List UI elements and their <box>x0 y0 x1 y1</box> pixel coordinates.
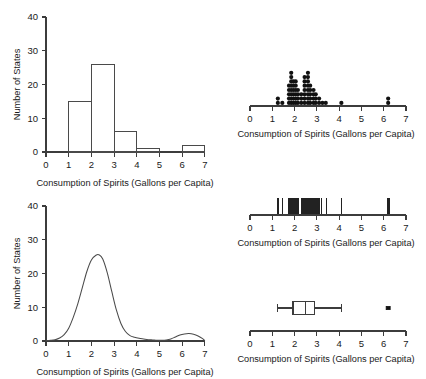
dotplot-dot <box>314 92 318 96</box>
density-xtick-3: 3 <box>111 348 116 359</box>
histogram-bars <box>69 64 205 152</box>
histogram-ytick-30: 30 <box>27 45 38 56</box>
density-y-axis-label: Number of States <box>12 237 22 309</box>
rugplot-xtick-0: 0 <box>247 222 252 233</box>
rugplot-xtick-2: 2 <box>292 222 297 233</box>
histogram-x-ticks <box>46 152 205 157</box>
histogram-ytick-40: 40 <box>27 11 38 22</box>
density-ytick-0: 0 <box>33 335 38 346</box>
dotplot-dot <box>280 101 284 105</box>
dotplot-dot <box>276 97 280 101</box>
histogram-ytick-10: 10 <box>27 113 38 124</box>
histogram-bar <box>114 132 137 152</box>
density-xtick-6: 6 <box>180 348 185 359</box>
histogram-bar <box>91 64 114 152</box>
dotplot-xtick-2: 2 <box>292 113 297 124</box>
dotplot-dots <box>276 71 391 105</box>
dotplot-svg: 0 1 2 3 4 5 6 7 Consumption of Spirits (… <box>226 40 426 140</box>
histogram-xtick-5: 5 <box>157 159 162 170</box>
density-x-axis-label: Consumption of Spirits (Gallons per Capi… <box>36 367 213 377</box>
boxplot-x-axis: 0 1 2 3 4 5 6 7 <box>247 331 408 349</box>
boxplot-xtick-6: 6 <box>381 338 386 349</box>
density-xtick-5: 5 <box>157 348 162 359</box>
density-xtick-0: 0 <box>43 348 48 359</box>
dotplot-xtick-3: 3 <box>314 113 319 124</box>
histogram-xtick-4: 4 <box>134 159 139 170</box>
statistics-figure: 0 10 20 30 40 0 1 <box>0 0 426 379</box>
rugplot-xtick-4: 4 <box>336 222 341 233</box>
dotplot-dot <box>306 75 310 79</box>
dotplot-x-ticks <box>250 106 406 111</box>
boxplot-x-ticks <box>250 331 406 336</box>
density-curve-line <box>46 255 205 341</box>
rugplot-svg: 0 1 2 3 4 5 6 7 Consumption of Spirits (… <box>226 185 426 255</box>
dotplot-dot <box>296 88 300 92</box>
boxplot-marks <box>277 302 390 315</box>
density-ytick-30: 30 <box>27 234 38 245</box>
panel-dotplot: 0 1 2 3 4 5 6 7 Consumption of Spirits (… <box>226 40 426 140</box>
density-x-ticks <box>46 341 205 346</box>
dotplot-dot <box>306 79 310 83</box>
histogram-xtick-2: 2 <box>89 159 94 170</box>
density-xtick-2: 2 <box>89 348 94 359</box>
dotplot-xtick-0: 0 <box>247 113 252 124</box>
rugplot-ticks <box>277 198 389 214</box>
panel-boxplot: 0 1 2 3 4 5 6 7 Consumption of Spirits (… <box>226 292 426 379</box>
density-xtick-1: 1 <box>66 348 71 359</box>
boxplot-xtick-3: 3 <box>314 338 319 349</box>
rugplot-xtick-1: 1 <box>270 222 275 233</box>
dotplot-dot <box>308 84 312 88</box>
boxplot-svg: 0 1 2 3 4 5 6 7 Consumption of Spirits (… <box>226 292 426 379</box>
dotplot-dot <box>317 97 321 101</box>
histogram-ytick-20: 20 <box>27 79 38 90</box>
dotplot-xtick-7: 7 <box>403 113 408 124</box>
boxplot-xtick-7: 7 <box>403 338 408 349</box>
dotplot-dot <box>386 101 390 105</box>
panel-histogram: 0 10 20 30 40 0 1 <box>0 0 220 190</box>
density-y-axis: 0 10 20 30 40 <box>27 200 46 346</box>
histogram-bar <box>182 145 205 152</box>
dotplot-xtick-1: 1 <box>270 113 275 124</box>
density-svg: 0 10 20 30 40 0 1 <box>0 188 220 379</box>
dotplot-dot <box>386 97 390 101</box>
histogram-y-ticks <box>42 17 46 152</box>
boxplot-xtick-5: 5 <box>359 338 364 349</box>
dotplot-xtick-4: 4 <box>336 113 341 124</box>
dotplot-x-axis-label: Consumption of Spirits (Gallons per Capi… <box>237 129 414 139</box>
density-ytick-20: 20 <box>27 268 38 279</box>
boxplot-outlier <box>386 306 390 309</box>
rugplot-x-axis-label: Consumption of Spirits (Gallons per Capi… <box>237 238 414 248</box>
dotplot-x-axis: 0 1 2 3 4 5 6 7 <box>247 106 408 124</box>
panel-rugplot: 0 1 2 3 4 5 6 7 Consumption of Spirits (… <box>226 185 426 255</box>
histogram-y-axis: 0 10 20 30 40 <box>27 11 46 157</box>
density-y-ticks <box>42 206 46 341</box>
boxplot-xtick-0: 0 <box>247 338 252 349</box>
rugplot-xtick-7: 7 <box>403 222 408 233</box>
boxplot-x-axis-label: Consumption of Spirits (Gallons per Capi… <box>237 354 414 364</box>
boxplot-xtick-4: 4 <box>336 338 341 349</box>
histogram-xtick-6: 6 <box>180 159 185 170</box>
rugplot-x-axis: 0 1 2 3 4 5 6 7 <box>247 215 408 233</box>
histogram-x-axis-label: Consumption of Spirits (Gallons per Capi… <box>36 178 213 188</box>
histogram-ytick-0: 0 <box>33 146 38 157</box>
rugplot-xtick-3: 3 <box>314 222 319 233</box>
dotplot-dot <box>289 75 293 79</box>
density-xtick-4: 4 <box>134 348 139 359</box>
histogram-bar <box>137 149 160 152</box>
dotplot-dot <box>289 71 293 75</box>
boxplot-box <box>293 302 315 315</box>
rugplot-x-ticks <box>250 215 406 220</box>
dotplot-xtick-6: 6 <box>381 113 386 124</box>
boxplot-xtick-2: 2 <box>292 338 297 349</box>
histogram-svg: 0 10 20 30 40 0 1 <box>0 0 220 190</box>
dotplot-dot <box>339 101 343 105</box>
density-ytick-10: 10 <box>27 302 38 313</box>
density-ytick-40: 40 <box>27 200 38 211</box>
histogram-xtick-1: 1 <box>66 159 71 170</box>
histogram-xtick-7: 7 <box>202 159 207 170</box>
dotplot-xtick-5: 5 <box>359 113 364 124</box>
density-x-axis: 0 1 2 3 4 5 6 7 <box>43 341 207 359</box>
boxplot-xtick-1: 1 <box>270 338 275 349</box>
density-xtick-7: 7 <box>202 348 207 359</box>
rugplot-xtick-6: 6 <box>381 222 386 233</box>
